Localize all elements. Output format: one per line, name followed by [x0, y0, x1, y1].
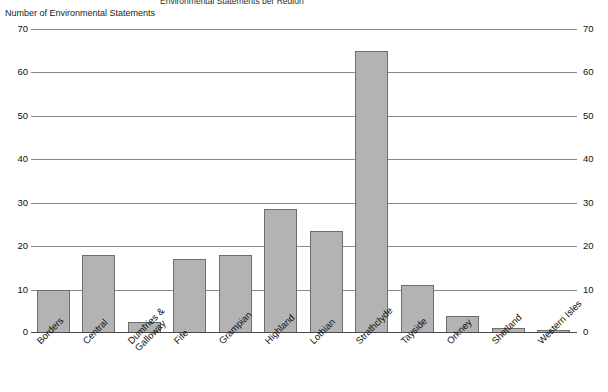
y-tick-right-30: 30	[583, 198, 608, 208]
y-tick-right-40: 40	[583, 154, 608, 164]
bar-series	[31, 29, 577, 333]
y-tick-right-0: 0	[583, 327, 608, 337]
bar-strathclyde	[355, 51, 388, 333]
y-axis-title: Number of Environmental Statements	[5, 8, 155, 18]
y-tick-left-0: 0	[2, 327, 28, 337]
plot-area	[31, 29, 577, 333]
environmental-statements-bar-chart: Environmental Statements per Region Numb…	[0, 0, 608, 392]
y-tick-left-70: 70	[2, 24, 28, 34]
y-tick-right-50: 50	[583, 111, 608, 121]
y-tick-right-60: 60	[583, 67, 608, 77]
y-tick-right-70: 70	[583, 24, 608, 34]
y-tick-right-10: 10	[583, 285, 608, 295]
y-tick-right-20: 20	[583, 241, 608, 251]
y-tick-left-60: 60	[2, 67, 28, 77]
y-tick-left-10: 10	[2, 285, 28, 295]
y-tick-left-40: 40	[2, 154, 28, 164]
y-tick-left-50: 50	[2, 111, 28, 121]
cropped-title-text: Environmental Statements per Region	[160, 0, 460, 4]
y-tick-left-20: 20	[2, 241, 28, 251]
x-axis-category-labels: Borders Central Dumfries & Galloway Fife…	[31, 333, 577, 391]
y-tick-left-30: 30	[2, 198, 28, 208]
